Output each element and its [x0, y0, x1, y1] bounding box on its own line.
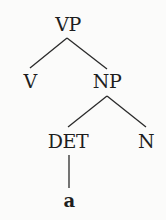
edge-np-n [107, 96, 146, 127]
node-vp: VP [55, 14, 81, 34]
edge-vp-v [30, 38, 67, 68]
edge-np-det [68, 96, 107, 127]
edge-vp-np [67, 38, 107, 69]
node-v: V [23, 71, 36, 91]
node-leaf-a: a [63, 191, 74, 211]
tree-edges [0, 0, 166, 220]
syntax-tree: VP V NP DET N a [0, 0, 166, 220]
node-np: NP [93, 71, 121, 91]
node-det: DET [48, 131, 88, 151]
node-n: N [138, 131, 154, 151]
